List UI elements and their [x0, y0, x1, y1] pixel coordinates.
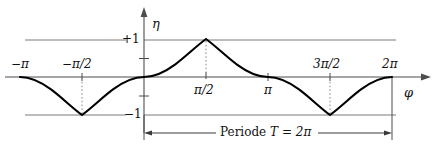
x-tick-label-minus-pi-over-2: −π/2 — [62, 58, 92, 70]
x-tick-label-pi-over-2: π/2 — [194, 84, 214, 96]
period-annotation-equals: = — [282, 125, 292, 139]
x-axis-label-varphi: φ — [404, 86, 413, 99]
y-tick-label-plus-one: +1 — [122, 33, 140, 45]
y-axis-arrowhead — [141, 7, 148, 17]
period-annotation-word: Periode — [220, 125, 266, 139]
x-tick-label-pi: π — [264, 84, 272, 96]
plot-canvas — [0, 0, 433, 156]
y-axis-label-eta: η — [152, 17, 160, 30]
period-annotation-value: 2π — [296, 125, 312, 139]
sine-wave-figure: +1 −1 η φ −π −π/2 π/2 π 3π/2 2π Periode … — [0, 0, 433, 156]
x-axis-arrowhead — [421, 74, 431, 81]
x-tick-label-three-pi-over-2: 3π/2 — [313, 58, 340, 70]
period-annotation: Periode T = 2π — [220, 126, 311, 138]
x-tick-label-two-pi: 2π — [382, 58, 398, 70]
x-tick-label-minus-pi: −π — [11, 58, 29, 70]
period-arrow-left-head — [144, 130, 152, 135]
period-arrow-right-head — [384, 130, 392, 135]
period-annotation-symbol: T — [270, 125, 278, 139]
y-tick-label-minus-one: −1 — [124, 108, 142, 120]
